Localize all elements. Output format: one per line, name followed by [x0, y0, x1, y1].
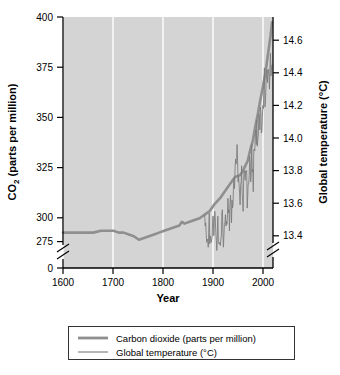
legend-label-co2: Carbon dioxide (parts per million) [116, 333, 256, 344]
chart-legend: Carbon dioxide (parts per million) Globa… [69, 327, 295, 360]
right-tick-label-14-2: 14.2 [283, 100, 303, 111]
left-tick-label-375: 375 [36, 62, 53, 73]
left-tick-label-zero: 0 [47, 263, 53, 274]
x-tick-label-1600: 1600 [52, 277, 75, 288]
climate-chart-svg: 400 375 350 325 300 275 0 CO2 (parts per… [0, 0, 340, 375]
x-tick-label-2000: 2000 [252, 277, 275, 288]
left-axis-title-rest: (parts per million) [6, 83, 18, 179]
left-axis-title-co: CO [6, 184, 18, 201]
right-tick-label-14-0: 14.0 [283, 133, 303, 144]
right-axis-title: Global temperature (°C) [317, 80, 329, 204]
x-tick-label-1700: 1700 [102, 277, 125, 288]
right-tick-label-13-6: 13.6 [283, 198, 303, 209]
left-tick-label-325: 325 [36, 162, 53, 173]
right-tick-label-14-6: 14.6 [283, 35, 303, 46]
left-tick-label-350: 350 [36, 112, 53, 123]
right-tick-label-14-4: 14.4 [283, 67, 303, 78]
chart-figure: 400 375 350 325 300 275 0 CO2 (parts per… [0, 0, 340, 375]
left-tick-label-400: 400 [36, 12, 53, 23]
x-tick-label-1800: 1800 [152, 277, 175, 288]
x-axis-title: Year [156, 292, 180, 304]
legend-label-temperature: Global temperature (°C) [116, 347, 217, 358]
x-tick-label-1900: 1900 [202, 277, 225, 288]
left-tick-label-275: 275 [36, 236, 53, 247]
right-tick-label-13-8: 13.8 [283, 165, 303, 176]
right-tick-label-13-4: 13.4 [283, 230, 303, 241]
right-axis-title-text: Global temperature (°C) [317, 80, 329, 204]
left-tick-label-300: 300 [36, 212, 53, 223]
